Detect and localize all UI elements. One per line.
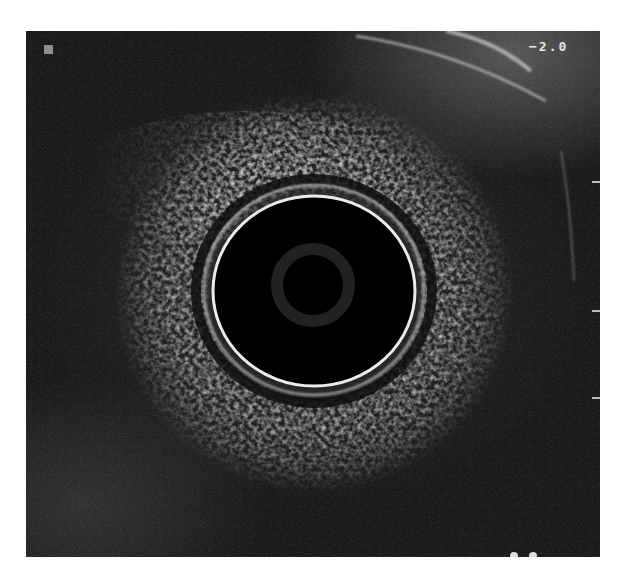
depth-scale-label: −2.0	[529, 39, 568, 54]
orientation-marker	[44, 45, 53, 54]
ultrasound-image: −2.0	[26, 31, 600, 557]
depth-tick-mark	[592, 397, 600, 399]
scale-dot	[529, 552, 537, 557]
depth-tick-mark	[592, 181, 600, 183]
depth-tick-mark	[592, 310, 600, 312]
ultrasound-rings	[26, 31, 600, 557]
scale-dot	[510, 552, 518, 557]
